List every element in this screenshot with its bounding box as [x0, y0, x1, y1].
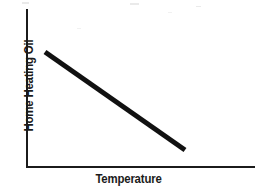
- plot-area: [0, 0, 257, 189]
- trend-line-series: [45, 52, 185, 150]
- x-axis-title: Temperature: [6, 172, 250, 186]
- y-axis-title: Home Heating Oil: [22, 19, 36, 152]
- chart-figure: Temperature Home Heating Oil: [0, 0, 257, 189]
